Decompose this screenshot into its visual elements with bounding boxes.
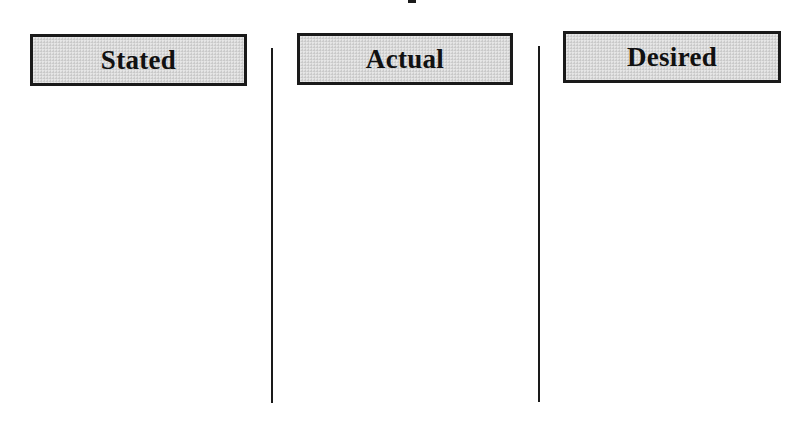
- column-header-label: Stated: [101, 45, 176, 76]
- column-header-label: Desired: [627, 42, 717, 73]
- column-body-desired: [548, 90, 788, 400]
- column-header-desired: Desired: [563, 31, 781, 83]
- column-body-stated: [30, 90, 265, 400]
- column-divider: [271, 48, 273, 403]
- column-header-label: Actual: [366, 44, 444, 75]
- column-header-stated: Stated: [30, 34, 247, 86]
- cropped-title-fragment: [408, 0, 416, 3]
- column-body-actual: [280, 90, 530, 400]
- column-header-actual: Actual: [297, 33, 513, 85]
- column-divider: [538, 46, 540, 402]
